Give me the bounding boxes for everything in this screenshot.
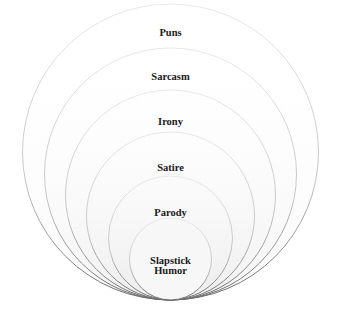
label-slapstick-line2: Humor <box>0 265 341 276</box>
label-puns: Puns <box>0 27 341 38</box>
label-sarcasm: Sarcasm <box>0 71 341 82</box>
label-satire: Satire <box>0 162 341 173</box>
label-irony: Irony <box>0 116 341 127</box>
label-parody: Parody <box>0 207 341 218</box>
